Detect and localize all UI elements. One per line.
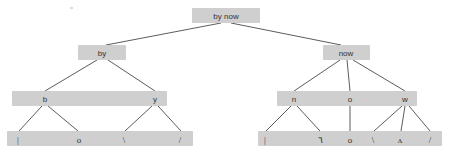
tree-node-stroke-l4[interactable]: /	[179, 135, 182, 145]
stroke-left-band	[7, 131, 193, 146]
tree-node-stroke-l2[interactable]: o	[77, 135, 82, 145]
root-to-now	[231, 23, 341, 45]
tree-node-letter-b[interactable]: b	[43, 95, 47, 105]
w-to-stroke5	[401, 106, 405, 131]
n-to-stroke2	[297, 106, 320, 131]
tree-node-stroke-r5[interactable]: ʌ	[398, 135, 403, 145]
parse-tree-figure: by nowbynowbynow|o\/|٦o\ʌ/	[0, 0, 449, 156]
tree-node-root[interactable]: by now	[213, 12, 238, 22]
now-to-w	[353, 60, 405, 91]
n-to-stroke1	[266, 106, 291, 131]
tree-node-stroke-l3[interactable]: \	[123, 135, 126, 145]
speck-top	[70, 7, 73, 9]
b-to-stroke2	[48, 106, 78, 131]
tree-node-stroke-r4[interactable]: \	[372, 135, 375, 145]
letter-left-band	[12, 91, 167, 106]
y-to-stroke3	[125, 106, 152, 131]
root-to-by	[106, 23, 221, 45]
w-to-stroke4	[374, 106, 402, 131]
w-to-stroke6	[409, 106, 430, 131]
tree-node-word-left[interactable]: by	[98, 49, 106, 59]
tree-node-stroke-r2[interactable]: ٦	[318, 135, 323, 145]
b-to-stroke1	[19, 106, 42, 131]
tree-node-stroke-r1[interactable]: |	[264, 135, 266, 145]
tree-node-letter-n[interactable]: n	[292, 95, 296, 105]
now-to-o	[347, 60, 350, 91]
y-to-stroke4	[158, 106, 181, 131]
now-to-n	[294, 60, 340, 91]
tree-node-letter-w[interactable]: w	[402, 95, 408, 105]
tree-node-word-right[interactable]: now	[339, 49, 354, 59]
tree-node-stroke-r6[interactable]: /	[429, 135, 432, 145]
tree-node-letter-y[interactable]: y	[153, 95, 157, 105]
tree-node-letter-o[interactable]: o	[348, 95, 352, 105]
tree-node-stroke-l1[interactable]: |	[17, 135, 19, 145]
by-to-b	[45, 60, 97, 91]
by-to-y	[108, 60, 155, 91]
tree-node-stroke-r3[interactable]: o	[348, 135, 353, 145]
